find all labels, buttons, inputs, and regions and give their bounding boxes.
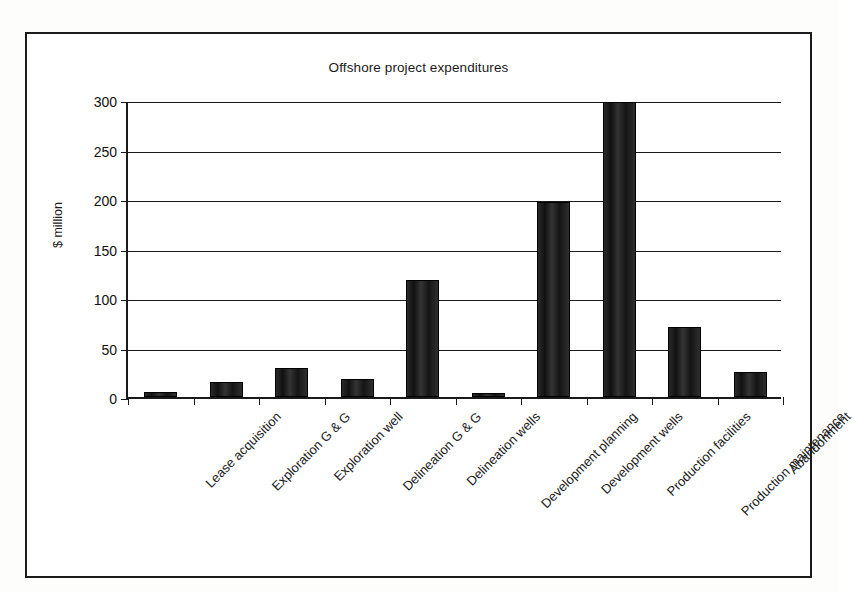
y-axis-tick [121,102,128,103]
x-axis-tick [390,397,391,405]
x-axis-tick-label: Production maintenance [738,409,848,519]
x-axis-tick-label: Delineation wells [463,409,543,489]
bar [734,372,767,397]
x-axis-tick [325,397,326,405]
bar [144,392,177,397]
y-axis-tick [121,399,128,400]
gridline [128,300,781,301]
x-axis-tick-label: Abandonment [786,409,854,477]
y-axis-tick [121,152,128,153]
y-axis-title: $ million [51,202,65,248]
bar [537,202,570,397]
gridline [128,201,781,202]
x-axis-tick [194,397,195,405]
x-axis-tick [652,397,653,405]
y-axis-tick-label: 100 [94,292,117,308]
chart-title: Offshore project expenditures [27,60,810,75]
x-axis-tick [259,397,260,405]
x-axis-tick [128,397,129,405]
bar [341,379,374,397]
y-axis-tick [121,300,128,301]
x-axis-tick [456,397,457,405]
y-axis-tick [121,251,128,252]
x-axis-tick-label: Development planning [538,409,640,511]
x-axis-tick-label: Delineation G & G [400,409,485,494]
chart-frame: Offshore project expenditures $ million … [25,32,812,578]
x-axis-tick [783,397,784,405]
bar [603,102,636,397]
bar [668,327,701,397]
gridline [128,152,781,153]
y-axis-tick-label: 150 [94,243,117,259]
bar [275,368,308,397]
y-axis-tick-label: 0 [109,391,117,407]
x-axis-tick [521,397,522,405]
x-axis-tick-label: Exploration G & G [269,409,354,494]
y-axis-tick-label: 50 [101,342,117,358]
bar [472,393,505,397]
y-axis-tick-label: 250 [94,144,117,160]
x-axis-tick-label: Development wells [598,409,686,497]
x-axis-tick-label: Lease acquisition [202,409,284,491]
gridline [128,102,781,103]
bar [210,382,243,397]
x-axis-tick [718,397,719,405]
y-axis-tick [121,201,128,202]
x-axis-tick-label: Exploration well [330,409,405,484]
plot-area: 050100150200250300 [126,102,781,399]
x-axis-tick-label: Production facilities [664,409,754,499]
y-axis-tick [121,350,128,351]
x-axis-tick [587,397,588,405]
y-axis-tick-label: 300 [94,94,117,110]
y-axis-tick-label: 200 [94,193,117,209]
bar [406,280,439,397]
gridline [128,251,781,252]
